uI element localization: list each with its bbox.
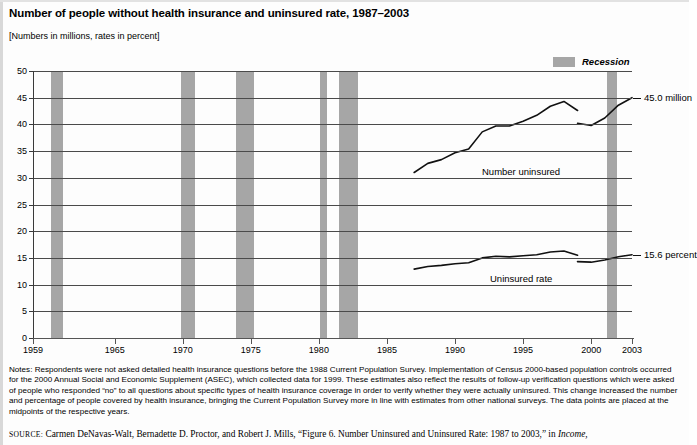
y-axis-tick-mark: [29, 178, 33, 179]
x-axis-tick-label: 1990: [440, 345, 470, 355]
x-axis-tick-label: 1959: [18, 345, 48, 355]
data-series-line: [578, 98, 632, 126]
y-axis-tick-mark: [29, 205, 33, 206]
figure-source: SOURCE: Carmen DeNavas-Walt, Bernadette …: [9, 428, 684, 441]
y-axis-tick-mark: [29, 151, 33, 152]
x-axis-tick-label: 1985: [372, 345, 402, 355]
y-axis-tick-label: 15: [5, 254, 27, 263]
source-body: Carmen DeNavas-Walt, Bernadette D. Proct…: [46, 429, 558, 439]
end-value-label-number: 45.0 million: [644, 92, 692, 103]
x-axis-tick-mark: [33, 339, 34, 344]
end-label-leader: [633, 255, 641, 256]
gridline: [33, 285, 632, 286]
y-axis-tick-mark: [29, 71, 33, 72]
plot-area: [33, 71, 632, 338]
x-axis-tick-label: 2000: [576, 345, 606, 355]
y-axis: [33, 71, 34, 339]
y-axis-tick-label: 20: [5, 227, 27, 236]
series-label-number-uninsured: Number uninsured: [482, 166, 560, 177]
x-axis-tick-label: 1980: [304, 345, 334, 355]
x-axis-tick-label: 1995: [508, 345, 538, 355]
y-axis-tick-mark: [29, 258, 33, 259]
y-axis-tick-mark: [29, 311, 33, 312]
x-axis-tick-mark: [523, 339, 524, 344]
x-axis-tick-mark: [319, 339, 320, 344]
y-axis-tick-mark: [29, 98, 33, 99]
data-series-line: [414, 251, 577, 269]
series-label-uninsured-rate: Uninsured rate: [490, 273, 552, 284]
y-axis-tick-label: 5: [5, 307, 27, 316]
x-axis-tick-label: 2003: [617, 345, 647, 355]
source-italic-tail: Income,: [558, 429, 588, 439]
data-series-line: [414, 101, 577, 172]
y-axis-tick-mark: [29, 231, 33, 232]
y-axis-tick-label: 40: [5, 120, 27, 129]
x-axis-tick-mark: [251, 339, 252, 344]
x-axis-tick-mark: [387, 339, 388, 344]
y-axis-tick-label: 25: [5, 201, 27, 210]
x-axis-tick-mark: [455, 339, 456, 344]
gridline: [33, 151, 632, 152]
x-axis-tick-mark: [591, 339, 592, 344]
end-label-leader: [633, 98, 641, 99]
x-axis-tick-label: 1970: [168, 345, 198, 355]
gridline: [33, 311, 632, 312]
y-axis-tick-mark: [29, 124, 33, 125]
gridline: [33, 98, 632, 99]
y-axis-tick-label: 30: [5, 174, 27, 183]
x-axis-tick-label: 1975: [236, 345, 266, 355]
figure-notes: Notes: Respondents were not asked detail…: [9, 365, 681, 417]
y-axis-tick-label: 10: [5, 281, 27, 290]
y-axis-tick-label: 45: [5, 94, 27, 103]
x-axis-tick-mark: [183, 339, 184, 344]
end-value-label-rate: 15.6 percent: [644, 249, 697, 260]
gridline: [33, 124, 632, 125]
gridline: [33, 178, 632, 179]
gridline: [33, 71, 632, 72]
y-axis-tick-label: 50: [5, 67, 27, 76]
x-axis: [33, 338, 634, 339]
x-axis-tick-mark: [115, 339, 116, 344]
gridline: [33, 258, 632, 259]
gridline: [33, 205, 632, 206]
gridline: [33, 231, 632, 232]
y-axis-tick-mark: [29, 285, 33, 286]
x-axis-tick-mark: [632, 339, 633, 344]
y-axis-tick-label: 35: [5, 147, 27, 156]
y-axis-tick-label: 0: [5, 334, 27, 343]
source-prefix: SOURCE:: [9, 430, 43, 439]
x-axis-tick-label: 1965: [100, 345, 130, 355]
